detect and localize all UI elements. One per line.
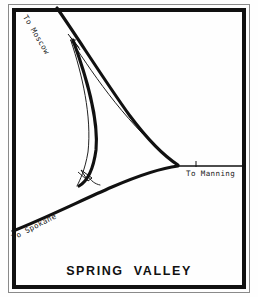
track-diagram-svg	[0, 0, 258, 297]
diagram-page: To Moscow To Spokane To Manning SPRING V…	[0, 0, 258, 297]
place-title: SPRING VALLEY	[0, 264, 258, 278]
paper-background	[0, 0, 258, 297]
